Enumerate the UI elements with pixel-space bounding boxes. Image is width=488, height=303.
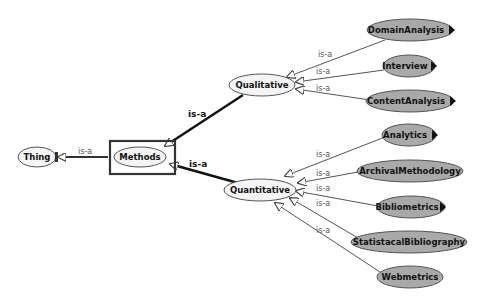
edge-label: is-a <box>318 50 332 59</box>
edge-label: is-a <box>78 147 92 156</box>
edge-archival-quantitative: is-a <box>298 169 358 183</box>
edge-qualitative-methods: is-a <box>165 95 243 146</box>
edge-contentanalysis-qualitative: is-a <box>296 84 370 100</box>
node-interview[interactable]: Interview <box>382 55 437 77</box>
node-label: DomainAnalysis <box>368 25 444 35</box>
expand-arrow-icon[interactable] <box>450 96 456 106</box>
node-contentanalysis[interactable]: ContentAnalysis <box>366 90 456 112</box>
node-statistacalbibliography[interactable]: StatistacalBibliography <box>351 231 467 253</box>
edge-interview-qualitative: is-a <box>296 67 384 82</box>
node-qualitative[interactable]: Qualitative <box>229 74 295 96</box>
node-webmetrics[interactable]: Webmetrics <box>377 266 443 288</box>
edge-label: is-a <box>316 67 330 76</box>
edge-bibliometrics-quantitative: is-a <box>296 184 378 206</box>
node-label: ContentAnalysis <box>367 96 445 106</box>
node-label: Bibliometrics <box>375 202 438 212</box>
edge-label: is-a <box>188 109 206 119</box>
node-analytics[interactable]: Analytics <box>382 124 438 146</box>
edge-quantitative-methods: is-a <box>170 159 238 183</box>
edge-label: is-a <box>189 159 207 169</box>
node-label: Methods <box>119 152 160 162</box>
node-label: Thing <box>24 152 51 162</box>
edge-label: is-a <box>316 150 330 159</box>
collapse-icon[interactable] <box>55 152 58 162</box>
edge-label: is-a <box>316 184 330 193</box>
edge-methods-thing: is-a <box>58 147 108 157</box>
node-bibliometrics[interactable]: Bibliometrics <box>375 196 446 218</box>
edge-label: is-a <box>316 226 330 235</box>
edge-label: is-a <box>316 199 330 208</box>
node-label: Analytics <box>383 130 427 140</box>
node-label: ArchivalMethodology <box>359 166 461 176</box>
node-label: StatistacalBibliography <box>353 237 466 247</box>
edge-label: is-a <box>316 84 330 93</box>
node-label: Webmetrics <box>382 272 439 282</box>
node-domainanalysis[interactable]: DomainAnalysis <box>367 19 455 41</box>
ontology-graph-canvas: is-a is-a is-a is-a is-a is-a is-a is-a … <box>0 0 488 303</box>
node-label: Quantitative <box>230 185 290 195</box>
node-thing[interactable]: Thing <box>18 147 58 167</box>
node-label: Interview <box>382 61 427 71</box>
edge-label: is-a <box>316 169 330 178</box>
node-label: Qualitative <box>236 80 289 90</box>
node-quantitative[interactable]: Quantitative <box>224 179 296 201</box>
node-archivalmethodology[interactable]: ArchivalMethodology <box>357 160 463 182</box>
expand-arrow-icon[interactable] <box>449 25 455 35</box>
